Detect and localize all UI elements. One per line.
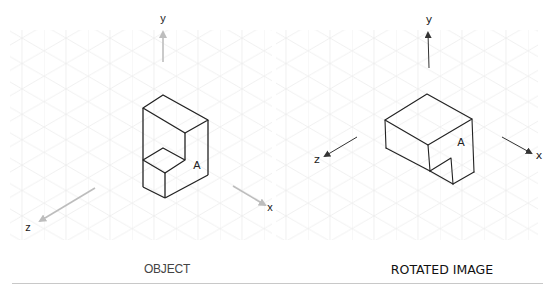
axis-y-label: y xyxy=(426,13,433,26)
axis-y-label: y xyxy=(160,12,166,24)
axis-z-label: z xyxy=(25,221,31,233)
isometric-grid-left xyxy=(10,30,272,240)
divider-line xyxy=(12,283,543,284)
rotated-image-caption: ROTATED IMAGE xyxy=(391,262,493,277)
isometric-diagram: y z x A xyxy=(0,0,548,291)
axis-x-label: x xyxy=(267,201,273,213)
isometric-grid-right xyxy=(276,30,538,240)
object-caption: OBJECT xyxy=(144,262,190,276)
axis-x-label: x xyxy=(536,149,543,162)
face-label-a: A xyxy=(193,159,201,171)
face-label-a: A xyxy=(457,136,465,149)
axis-z-label: z xyxy=(314,153,320,166)
